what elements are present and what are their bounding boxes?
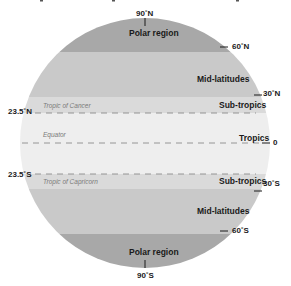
label-equator: Equator: [43, 132, 66, 139]
region-sub-south: Sub-tropics: [219, 177, 266, 186]
band-tropics: [0, 113, 291, 174]
region-tropics: Tropics: [239, 134, 269, 143]
label-90n: 90˚N: [136, 10, 153, 18]
region-polar-south: Polar region: [129, 248, 179, 257]
cut-off-title: [40, 0, 239, 2]
label-0: 0: [273, 139, 277, 147]
label-tropic-of-capricorn: Tropic of Capricorn: [43, 179, 98, 186]
region-mid-north: Mid-latitudes: [197, 75, 249, 84]
region-polar-north: Polar region: [129, 29, 179, 38]
climate-zones-diagram: 90˚N 60˚N 30˚N 23.5˚N 0 23.5˚S 30˚S 60˚S…: [0, 0, 291, 286]
label-30n: 30˚N: [263, 90, 280, 98]
label-60n: 60˚N: [232, 43, 249, 51]
label-23n: 23.5˚N: [8, 108, 32, 116]
label-23s: 23.5˚S: [8, 171, 32, 179]
region-sub-north: Sub-tropics: [219, 101, 266, 110]
label-90s: 90˚S: [137, 272, 154, 280]
label-tropic-of-cancer: Tropic of Cancer: [43, 103, 91, 110]
label-60s: 60˚S: [232, 227, 249, 235]
region-mid-south: Mid-latitudes: [197, 207, 249, 216]
